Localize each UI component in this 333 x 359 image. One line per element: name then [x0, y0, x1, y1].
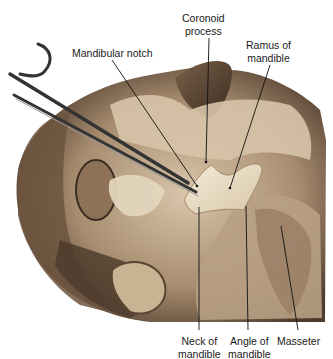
- label-neck-of-mandible: Neck of mandible: [178, 335, 221, 359]
- label-masseter: Masseter: [277, 335, 320, 348]
- label-coronoid-process: Coronoid process: [182, 12, 225, 37]
- label-ramus-of-mandible: Ramus of mandible: [246, 39, 291, 64]
- anatomy-figure: Coronoid process Mandibular notch Ramus …: [0, 0, 333, 359]
- label-angle-of-mandible: Angle of mandible: [228, 335, 271, 359]
- label-mandibular-notch: Mandibular notch: [72, 47, 153, 60]
